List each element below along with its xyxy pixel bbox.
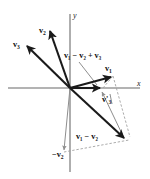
label-resultant: v₁ − v₂ + v₃ <box>64 51 102 60</box>
label-v2: v2 <box>39 26 46 36</box>
y-axis-label: y <box>72 11 77 20</box>
dash-v1-to-corner <box>113 76 130 137</box>
label-v1: v1 <box>105 64 112 74</box>
vector-v1-minus-v2 <box>70 88 124 138</box>
label-v1-sub: 1 <box>109 68 112 74</box>
main-vectors-group <box>27 31 124 138</box>
vector-v1 <box>70 77 111 88</box>
label-v3: v3 <box>13 40 20 50</box>
vector-neg-v2 <box>64 88 70 150</box>
label-v1-minus-v2: v₁ − v₂ <box>76 132 98 141</box>
vector-diagram-figure: y x v2 v3 v1 v'3 −v2 v₁ − v₂ v₁ − v₂ + v… <box>0 0 150 179</box>
label-neg-v2-sub: 2 <box>61 154 64 160</box>
label-v2-sub: 2 <box>43 30 46 36</box>
x-axis-label: x <box>136 79 141 88</box>
label-v3-sub: 3 <box>17 44 20 50</box>
label-v3-prime-sub: 3 <box>108 99 111 105</box>
label-v3-prime: v'3 <box>102 95 111 105</box>
label-neg-v2: −v2 <box>52 150 64 160</box>
dash-negv2-to-corner <box>64 140 129 152</box>
vector-diagram-canvas: y x v2 v3 v1 v'3 −v2 v₁ − v₂ v₁ − v₂ + v… <box>0 0 150 179</box>
